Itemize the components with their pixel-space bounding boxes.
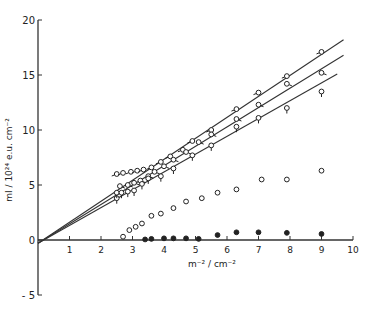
x-tick-label: 3 <box>130 245 136 255</box>
data-point <box>184 199 189 204</box>
y-tick-label: - 5 <box>22 290 35 301</box>
data-point <box>234 117 239 122</box>
data-point <box>184 236 189 241</box>
data-point <box>149 237 154 242</box>
data-point <box>184 150 189 155</box>
x-tick-label: 8 <box>287 245 293 255</box>
x-tick-label: 1 <box>67 245 73 255</box>
data-point <box>114 172 119 177</box>
data-point <box>215 190 220 195</box>
data-point <box>319 50 324 55</box>
data-points <box>112 50 327 242</box>
data-point <box>140 221 145 226</box>
data-point <box>319 89 324 94</box>
data-point <box>141 167 146 172</box>
data-point <box>162 164 167 169</box>
data-point <box>125 189 130 194</box>
y-tick-label: 15 <box>22 70 35 81</box>
series <box>112 50 324 177</box>
data-point <box>129 169 134 174</box>
data-point <box>143 237 148 242</box>
data-point <box>127 228 132 233</box>
line-bottom <box>38 74 337 243</box>
x-tick-label: 4 <box>161 245 167 255</box>
x-tick-label: 7 <box>256 245 262 255</box>
y-tick-label: 5 <box>29 180 35 191</box>
data-point <box>319 232 324 237</box>
data-point <box>319 168 324 173</box>
data-point <box>319 70 324 75</box>
data-point <box>284 106 289 111</box>
y-tick-label: 20 <box>22 15 35 26</box>
line-middle <box>38 55 344 243</box>
data-point <box>234 230 239 235</box>
data-point <box>158 174 163 179</box>
x-tick-label: 9 <box>319 245 325 255</box>
data-point <box>171 157 176 162</box>
x-tick-label: 5 <box>193 245 199 255</box>
data-point <box>132 180 137 185</box>
data-point <box>256 116 261 121</box>
data-point <box>125 183 130 188</box>
scatter-chart: - 50510152012345678910 mI / 10²⁴ e.u. cm… <box>0 0 372 311</box>
x-tick-label: 6 <box>224 245 230 255</box>
data-point <box>162 236 167 241</box>
data-point <box>149 213 154 218</box>
data-point <box>190 139 195 144</box>
data-point <box>146 176 151 181</box>
x-axis-label: m⁻² / cm⁻² <box>188 259 236 269</box>
x-tick-label: 10 <box>347 245 359 255</box>
data-point <box>152 169 157 174</box>
series <box>114 89 324 204</box>
data-point <box>196 237 201 242</box>
data-point <box>171 166 176 171</box>
data-point <box>209 143 214 148</box>
data-point <box>171 236 176 241</box>
data-point <box>133 224 138 229</box>
data-point <box>196 140 201 145</box>
data-point <box>215 233 220 238</box>
data-point <box>259 177 264 182</box>
data-point <box>132 188 137 193</box>
data-point <box>135 168 140 173</box>
data-point <box>158 160 163 165</box>
data-point <box>114 190 119 195</box>
data-point <box>121 234 126 239</box>
data-point <box>284 177 289 182</box>
data-point <box>199 196 204 201</box>
x-tick-label: 2 <box>98 245 104 255</box>
data-point <box>256 90 261 95</box>
data-point <box>234 124 239 129</box>
data-point <box>209 132 214 137</box>
data-point <box>256 102 261 107</box>
data-point <box>284 230 289 235</box>
data-point <box>190 153 195 158</box>
data-point <box>158 211 163 216</box>
data-point <box>121 171 126 176</box>
data-point <box>118 184 123 189</box>
data-point <box>284 74 289 79</box>
data-point <box>256 230 261 235</box>
y-tick-label: 10 <box>22 125 35 136</box>
data-point <box>140 182 145 187</box>
data-point <box>149 165 154 170</box>
data-point <box>234 187 239 192</box>
data-point <box>171 206 176 211</box>
data-point <box>234 107 239 112</box>
data-point <box>119 190 124 195</box>
y-tick-label: 0 <box>29 235 35 246</box>
data-point <box>284 81 289 86</box>
y-axis-label: mI / 10²⁴ e.u. cm⁻² <box>4 118 14 202</box>
